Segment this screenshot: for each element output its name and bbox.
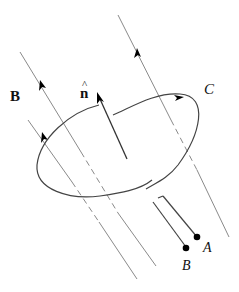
- terminal-dot-a: [194, 234, 201, 241]
- label-terminal-a: A: [202, 240, 212, 255]
- normal-vector: [97, 92, 127, 159]
- flux-diagram: B ^ n C A B: [0, 0, 239, 292]
- label-normal: n: [80, 85, 89, 101]
- label-field-b: B: [10, 88, 20, 104]
- arrow-head-icon: [97, 92, 104, 104]
- loop-direction-arrow-icon: [174, 95, 184, 101]
- field-line-right: [118, 15, 229, 237]
- arrow-head-icon: [41, 132, 48, 143]
- terminal-dot-b: [183, 245, 190, 252]
- terminal-lead-b: [153, 202, 189, 251]
- label-curve-c: C: [204, 81, 215, 97]
- label-terminal-b: B: [182, 258, 191, 273]
- loop-c: [37, 94, 199, 197]
